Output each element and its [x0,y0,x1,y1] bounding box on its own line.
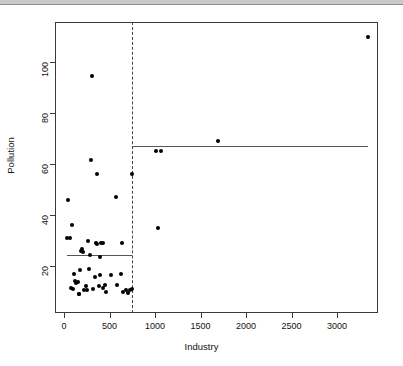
x-tick-label: 0 [61,321,66,331]
x-tick-mark [246,313,247,318]
data-point [66,198,70,202]
y-tick-label: 80 [40,113,50,153]
data-point [101,241,105,245]
x-tick-mark [292,313,293,318]
y-tick-label: 60 [40,164,50,204]
data-point [71,287,75,291]
data-point [88,253,92,257]
scatter-plot: 05001000150020002500300020406080100 Indu… [0,0,403,366]
data-point [156,226,160,230]
data-point [103,283,107,287]
plot-frame [55,22,378,313]
x-tick-mark [337,313,338,318]
data-point [68,236,72,240]
x-tick-label: 1000 [145,321,165,331]
y-tick-mark [50,62,55,63]
x-tick-mark [110,313,111,318]
data-point [86,239,90,243]
data-point [85,288,89,292]
y-tick-label: 20 [40,266,50,306]
data-point [216,139,220,143]
data-point [114,195,118,199]
x-tick-label: 1500 [190,321,210,331]
data-point [76,280,80,284]
data-point [130,287,134,291]
y-tick-mark [50,215,55,216]
x-tick-label: 500 [102,321,117,331]
data-point [98,255,102,259]
x-tick-label: 3000 [327,321,347,331]
y-tick-mark [50,164,55,165]
x-tick-label: 2000 [236,321,256,331]
x-axis-title: Industry [0,341,403,352]
x-tick-label: 2500 [281,321,301,331]
data-point [119,272,123,276]
y-tick-mark [50,113,55,114]
x-tick-mark [155,313,156,318]
data-point [366,35,370,39]
data-point [87,267,91,271]
y-tick-mark [50,266,55,267]
x-tick-mark [64,313,65,318]
data-point [104,290,108,294]
figure-root: 05001000150020002500300020406080100 Indu… [0,0,403,366]
data-point [154,149,158,153]
right-node-mean-line [132,146,368,147]
split-threshold-line [132,22,133,313]
y-tick-label: 40 [40,215,50,255]
y-tick-label: 100 [40,62,50,102]
y-axis-title: Pollution [5,106,16,206]
x-tick-mark [201,313,202,318]
